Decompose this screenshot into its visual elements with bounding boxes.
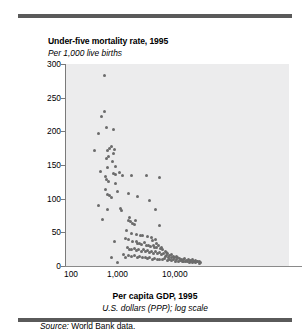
scatter-point xyxy=(120,209,123,212)
x-axis-title: Per capita GDP, 1995 xyxy=(18,291,292,301)
chart-title: Under-five mortality rate, 1995 xyxy=(48,36,168,46)
scatter-point xyxy=(97,204,100,207)
scatter-point xyxy=(175,255,178,258)
y-tick-label: 300 xyxy=(21,59,61,69)
x-axis-line xyxy=(65,266,302,267)
scatter-point xyxy=(121,174,124,177)
scatter-point xyxy=(106,166,109,169)
scatter-point xyxy=(114,165,117,168)
scatter-point xyxy=(158,224,161,227)
chart-subtitle: Per 1,000 live births xyxy=(48,48,122,58)
plot-area-background xyxy=(65,64,289,266)
scatter-point xyxy=(154,238,157,241)
x-tick-label: 1,000 xyxy=(107,269,128,279)
scatter-point xyxy=(154,208,157,211)
figure-container: Under-five mortality rate, 1995 Per 1,00… xyxy=(0,0,302,332)
scatter-point xyxy=(99,170,102,173)
y-tick-label: 150 xyxy=(21,160,61,170)
scatter-point xyxy=(160,246,163,249)
source-note: Source: World Bank data. xyxy=(40,321,135,331)
y-tick-mark xyxy=(61,131,65,132)
y-tick-label: 50 xyxy=(21,227,61,237)
y-tick-mark xyxy=(61,98,65,99)
y-tick-mark xyxy=(61,232,65,233)
source-label: Source: xyxy=(40,321,69,331)
x-axis-subtitle: U.S. dollars (PPP); log scale xyxy=(18,303,292,313)
scatter-point xyxy=(100,115,103,118)
scatter-point xyxy=(158,176,161,179)
scatter-point xyxy=(111,160,114,163)
scatter-point xyxy=(103,110,106,113)
scatter-point xyxy=(124,237,127,240)
scatter-point xyxy=(112,152,115,155)
y-axis-line xyxy=(65,64,66,267)
scatter-point xyxy=(124,256,127,259)
y-tick-label: 0 xyxy=(21,261,61,271)
y-tick-mark xyxy=(61,199,65,200)
scatter-point xyxy=(103,74,106,77)
scatter-point xyxy=(125,229,128,232)
y-tick-mark xyxy=(61,165,65,166)
scatter-point xyxy=(130,232,133,235)
scatter-point xyxy=(97,132,100,135)
scatter-point xyxy=(130,174,133,177)
chart-panel: Under-five mortality rate, 1995 Per 1,00… xyxy=(18,18,292,318)
y-tick-label: 200 xyxy=(21,126,61,136)
scatter-point xyxy=(113,148,116,151)
y-tick-mark xyxy=(61,64,65,65)
x-tick-label: 10,000 xyxy=(162,269,188,279)
x-tick-label: 100 xyxy=(64,269,78,279)
scatter-point xyxy=(133,223,136,226)
scatter-point xyxy=(135,233,138,236)
scatter-point xyxy=(101,218,104,221)
scatter-point xyxy=(167,256,170,259)
source-text: World Bank data. xyxy=(69,321,135,331)
y-tick-mark xyxy=(61,266,65,267)
scatter-point xyxy=(107,180,110,183)
scatter-point xyxy=(118,171,121,174)
y-tick-label: 100 xyxy=(21,194,61,204)
y-tick-label: 250 xyxy=(21,93,61,103)
